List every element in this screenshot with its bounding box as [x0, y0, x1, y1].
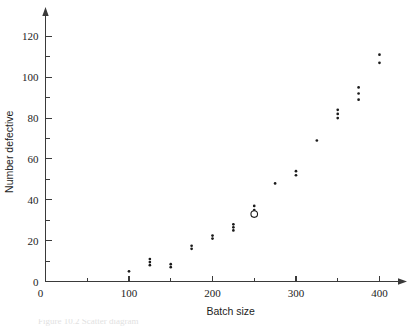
data-point [274, 182, 277, 185]
x-axis-title: Batch size [207, 305, 256, 317]
data-point [211, 237, 214, 240]
x-tick-label: 400 [371, 287, 388, 299]
y-axis-arrow-icon [42, 7, 48, 16]
figure-caption: Figure 10.2 Scatter diagram [38, 319, 138, 326]
data-point [357, 86, 360, 89]
scatter-plot-figure: 0204060801001200100200300400 Batch sizeN… [0, 0, 408, 330]
data-point [357, 98, 360, 101]
plot-canvas: 0204060801001200100200300400 Batch sizeN… [0, 0, 408, 330]
data-point [295, 174, 298, 177]
data-point [128, 270, 131, 273]
data-point [190, 247, 193, 250]
data-point [357, 92, 360, 95]
data-point [232, 226, 235, 229]
x-axis-arrow-icon [398, 278, 407, 284]
data-point [149, 258, 152, 261]
data-points-group [128, 53, 381, 272]
x-tick-label: 100 [121, 287, 138, 299]
ticks-group [46, 36, 380, 281]
data-point [232, 229, 235, 232]
data-point [295, 170, 298, 173]
tick-labels-group: 0204060801001200100200300400 [22, 30, 388, 298]
data-point [149, 261, 152, 264]
data-point [211, 234, 214, 237]
data-point [253, 205, 256, 208]
y-axis-title: Number defective [3, 110, 15, 192]
axes-group [42, 7, 407, 285]
x-tick-label: 200 [204, 287, 221, 299]
data-point [378, 53, 381, 56]
y-tick-label: 20 [28, 235, 40, 247]
x-tick-label: 0 [38, 287, 44, 299]
data-point [336, 117, 339, 120]
data-point [190, 244, 193, 247]
data-point-highlighted [251, 211, 258, 218]
y-tick-label: 120 [22, 30, 39, 42]
y-tick-label: 100 [22, 71, 39, 83]
x-tick-label: 300 [288, 287, 305, 299]
data-point [316, 139, 319, 142]
figure-caption-strip: Figure 10.2 Scatter diagram [0, 319, 408, 330]
data-point [336, 109, 339, 112]
data-point [169, 266, 172, 269]
data-point [149, 264, 152, 267]
y-tick-label: 80 [28, 112, 40, 124]
y-tick-label: 60 [28, 153, 40, 165]
data-point [336, 113, 339, 116]
data-point [378, 62, 381, 65]
y-tick-label: 40 [28, 194, 40, 206]
data-point [169, 263, 172, 266]
data-point [232, 223, 235, 226]
